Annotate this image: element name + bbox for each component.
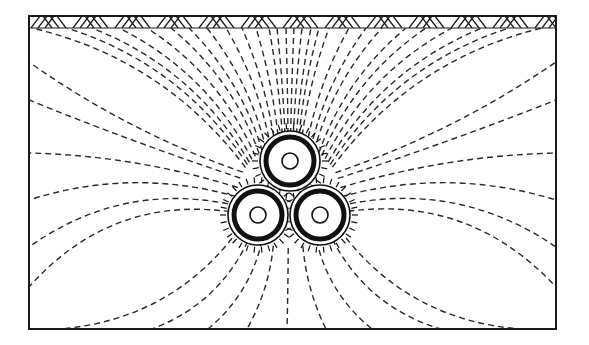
field-line [207,28,266,149]
cable-conductor [312,207,328,223]
field-line [303,246,326,329]
field-line [328,230,440,329]
field-line [60,222,244,329]
field-line [340,198,556,247]
field-line [338,100,556,178]
field-line [152,232,252,329]
ground-hatch [8,16,563,28]
field-line [242,28,275,146]
field-line [29,183,237,200]
field-line [340,153,556,188]
cable-top [260,131,320,191]
field-line [317,240,373,329]
field-line [32,28,246,168]
field-line [341,183,556,200]
field-line [287,248,288,329]
cable-conductor [250,207,266,223]
field-line [29,199,238,247]
field-line [296,28,311,144]
field-line [29,100,240,178]
field-line-diagram [0,0,589,345]
cable-bottom-right [290,185,350,245]
field-line [338,209,556,287]
field-line [247,246,273,329]
field-line [334,222,520,329]
field-line [325,28,452,159]
field-line [29,209,240,287]
cable-conductor [282,153,298,169]
field-line [92,28,249,162]
field-line [226,28,271,147]
field-line [311,28,366,149]
cable-bottom-left [228,185,288,245]
field-line [269,28,283,144]
